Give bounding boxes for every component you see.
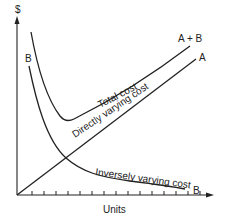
inverse-cost-label: Inversely varying cost: [95, 166, 192, 190]
x-axis-arrow-icon: [206, 193, 214, 198]
total-cost-end-label: A + B: [178, 33, 203, 44]
x-axis-label: Units: [103, 204, 126, 215]
direct-cost-label: Directly varying cost: [70, 80, 151, 139]
y-axis-arrow-icon: [15, 16, 20, 24]
direct-cost-end-label: A: [199, 52, 206, 63]
x-axis-ticks: [32, 191, 200, 195]
inverse-cost-end-label: B: [193, 185, 200, 196]
inverse-cost-start-label: B: [25, 53, 32, 64]
cost-chart: $ Units A + B A B B Total cost Directly …: [0, 0, 225, 223]
y-axis-label: $: [15, 4, 21, 15]
